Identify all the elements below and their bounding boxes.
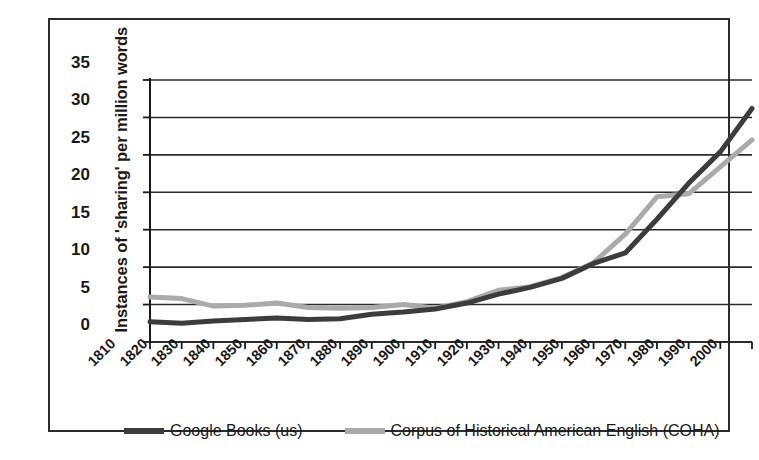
plot-area [50, 20, 759, 460]
light-line-swatch [345, 428, 385, 434]
y-tick-label: 30 [56, 91, 90, 108]
chart-frame: Instances of 'sharing' per million words… [48, 18, 730, 432]
series-line [150, 140, 752, 308]
legend-label: Corpus of Historical American English (C… [391, 422, 720, 440]
legend-item[interactable]: Corpus of Historical American English (C… [345, 422, 720, 440]
y-tick-label: 15 [56, 204, 90, 221]
legend-item[interactable]: Google Books (us) [124, 422, 303, 440]
chart-canvas [50, 20, 759, 460]
y-tick-label: 5 [56, 279, 90, 296]
dark-line-swatch [124, 428, 164, 434]
y-tick-label: 20 [56, 166, 90, 183]
y-tick-label: 35 [56, 54, 90, 71]
chart-legend: Google Books (us)Corpus of Historical Am… [124, 418, 759, 444]
series-line [150, 108, 752, 323]
y-tick-label: 10 [56, 241, 90, 258]
y-tick-label: 0 [56, 316, 90, 333]
legend-label: Google Books (us) [170, 422, 303, 440]
y-tick-label: 25 [56, 129, 90, 146]
